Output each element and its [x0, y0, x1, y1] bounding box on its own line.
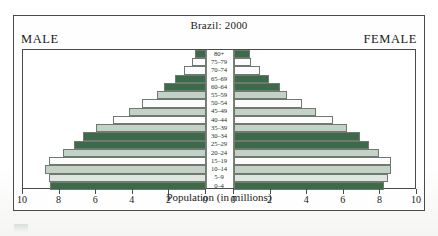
pyramid-plot-area: 0–45–910–1415–1920–2425–2930–3435–3940–4… — [22, 49, 416, 189]
age-group-label: 80+ — [23, 51, 415, 58]
age-group-label: 50–54 — [23, 100, 415, 107]
age-group-label: 45–49 — [23, 108, 415, 115]
age-group-label: 10–14 — [23, 166, 415, 173]
age-group-label: 15–19 — [23, 158, 415, 165]
age-group-label: 55–59 — [23, 92, 415, 99]
scan-artifact — [14, 224, 28, 233]
age-group-label: 25–29 — [23, 141, 415, 148]
chart-frame: Brazil: 2000 MALE FEMALE 0–45–910–1415–1… — [13, 15, 425, 211]
age-group-label: 0–4 — [23, 183, 415, 190]
age-group-label: 70–74 — [23, 67, 415, 74]
age-group-label: 75–79 — [23, 59, 415, 66]
age-group-label: 30–34 — [23, 133, 415, 140]
x-axis-title: Population (in millions) — [14, 191, 424, 203]
male-side-label: MALE — [21, 32, 59, 47]
age-group-label: 35–39 — [23, 125, 415, 132]
age-group-label: 60–64 — [23, 84, 415, 91]
chart-title: Brazil: 2000 — [14, 19, 424, 31]
age-group-label: 5–9 — [23, 174, 415, 181]
age-group-label: 20–24 — [23, 150, 415, 157]
female-side-label: FEMALE — [363, 32, 417, 47]
age-group-label: 65–69 — [23, 76, 415, 83]
age-group-label: 40–44 — [23, 117, 415, 124]
